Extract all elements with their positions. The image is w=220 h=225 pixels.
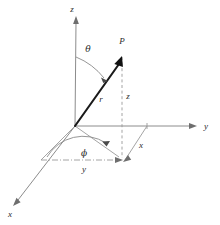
- x-axis-label: x: [7, 209, 12, 219]
- label-group: z P θ r z y x ϕ y x: [7, 4, 208, 219]
- theta-arc: [76, 57, 104, 78]
- radius-label: r: [99, 94, 103, 104]
- x-component-line: [125, 126, 147, 160]
- y-component-label: y: [81, 164, 86, 174]
- y-axis-arrowhead: [189, 123, 197, 129]
- angle-arcs: [47, 57, 110, 157]
- z-axis-label: z: [69, 4, 74, 14]
- figure-canvas: z P θ r z y x ϕ y x: [0, 0, 220, 225]
- radius-vector-line: [75, 64, 119, 126]
- z-axis-line: [75, 22, 76, 126]
- x-component-label: x: [138, 140, 143, 150]
- z-axis: [73, 16, 79, 126]
- phi-arc: [47, 136, 106, 157]
- x-axis-line: [18, 126, 75, 200]
- origin-to-y-foot-line: [41, 126, 75, 160]
- radius-vector-arrowhead: [114, 56, 123, 67]
- theta-label: θ: [85, 44, 91, 54]
- z-axis-arrowhead: [73, 16, 79, 24]
- construction-group: [41, 57, 147, 163]
- y-axis: [75, 123, 197, 129]
- axis-group: [13, 16, 197, 206]
- spherical-coordinates-diagram: z P θ r z y x ϕ y x: [0, 0, 220, 225]
- phi-label: ϕ: [81, 148, 87, 158]
- z-component-label: z: [125, 91, 130, 101]
- y-axis-label: y: [203, 121, 208, 131]
- radius-vector: [75, 56, 123, 126]
- point-p-label: P: [118, 36, 125, 46]
- x-axis: [13, 126, 75, 206]
- x-axis-arrowhead: [13, 198, 21, 206]
